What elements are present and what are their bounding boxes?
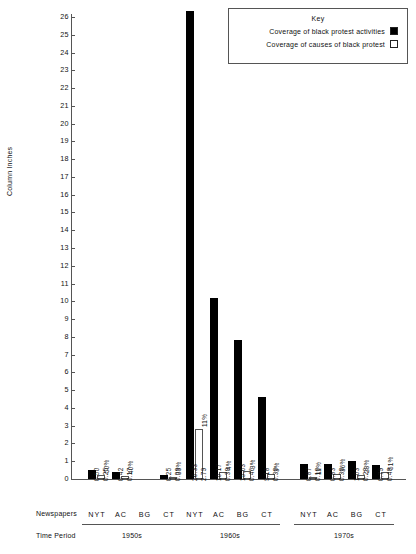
bar-value-label-activities: 0.25	[166, 468, 172, 481]
bar-value-label-causes: 2.79	[201, 468, 207, 481]
y-axis-tick-label: 19	[49, 137, 69, 144]
bar-value-label-causes: 0.23	[363, 468, 369, 481]
y-axis-tick-mark	[71, 159, 75, 160]
y-axis-tick-label: 2	[49, 439, 69, 446]
bar-value-label-causes: 0.38	[225, 468, 231, 481]
y-axis-tick-mark	[71, 17, 75, 18]
y-axis-tick-label: 6	[49, 368, 69, 375]
y-axis-tick-mark	[71, 443, 75, 444]
y-axis-tick-mark	[71, 266, 75, 267]
bar-value-label-causes: 0.30	[339, 468, 345, 481]
newspaper-label-ct: CT	[255, 510, 279, 519]
y-axis-tick-mark	[71, 106, 75, 107]
newspaper-label-bg: BG	[133, 510, 157, 519]
legend-item-label: Coverage of causes of black protest	[266, 41, 385, 48]
y-axis-tick-label: 18	[49, 155, 69, 162]
legend-item-label: Coverage of black protest activities	[269, 28, 385, 35]
newspaper-label-bg: BG	[231, 510, 255, 519]
y-axis-tick-label: 25	[49, 31, 69, 38]
y-axis-tick-mark	[71, 70, 75, 71]
period-rule	[180, 524, 280, 525]
y-axis-tick-label: 24	[49, 49, 69, 56]
y-axis-tick-label: 13	[49, 244, 69, 251]
bar-value-label-activities: 1.03	[354, 468, 360, 481]
bar-value-label-activities: 0.83	[330, 468, 336, 481]
newspaper-label-nyt: NYT	[85, 510, 109, 519]
y-axis-tick-label: 20	[49, 120, 69, 127]
legend-items: Coverage of black protest activitiesCove…	[229, 27, 407, 48]
y-axis-tick-label: 15	[49, 208, 69, 215]
bar-value-label-activities: 0.42	[118, 468, 124, 481]
newspaper-label-ct: CT	[369, 510, 393, 519]
y-axis-title-text: Column Inches	[6, 86, 13, 196]
axis-tables: Newspapers Time Period NYTACBGCT1950sNYT…	[0, 500, 416, 554]
y-axis-tick-mark	[71, 248, 75, 249]
y-axis-tick-mark	[71, 195, 75, 196]
period-rule	[294, 524, 394, 525]
bar-value-label-causes: 0.25	[103, 468, 109, 481]
newspaper-label-nyt: NYT	[183, 510, 207, 519]
bar-activities	[234, 340, 242, 479]
bar-value-label-causes: 0.30	[273, 468, 279, 481]
period-label-1960s: 1960s	[180, 532, 280, 539]
bar-value-label-causes: 0.08	[175, 468, 181, 481]
y-axis-tick-mark	[71, 230, 75, 231]
legend-item: Coverage of black protest activities	[229, 27, 407, 35]
y-axis-title: Column Inches	[6, 86, 13, 196]
bar-activities	[186, 11, 194, 479]
bar-value-label-activities: 10.17	[216, 464, 222, 481]
legend-swatch-filled	[390, 27, 398, 35]
bar-value-label-activities: 26.33	[192, 464, 198, 481]
y-axis-tick-label: 21	[49, 102, 69, 109]
y-axis-tick-label: 22	[49, 84, 69, 91]
bar-value-label-causes: 0.40	[387, 468, 393, 481]
y-axis-tick-mark	[71, 141, 75, 142]
bar-value-label-causes: 0.46	[249, 468, 255, 481]
legend-item: Coverage of causes of black protest	[229, 40, 407, 48]
bar-value-label-activities: 0.79	[378, 468, 384, 481]
y-axis-line	[71, 14, 72, 480]
legend-swatch-hollow	[390, 40, 398, 48]
y-axis-tick-mark	[71, 408, 75, 409]
newspapers-row-label: Newspapers	[36, 510, 77, 517]
y-axis-tick-label: 5	[49, 386, 69, 393]
y-axis-tick-mark	[71, 177, 75, 178]
y-axis-tick-mark	[71, 212, 75, 213]
y-axis-tick-label: 7	[49, 351, 69, 358]
period-label-1970s: 1970s	[294, 532, 394, 539]
legend: Key Coverage of black protest activities…	[228, 8, 408, 64]
newspaper-label-nyt: NYT	[297, 510, 321, 519]
newspaper-label-ac: AC	[207, 510, 231, 519]
y-axis-tick-mark	[71, 301, 75, 302]
period-label-1950s: 1950s	[82, 532, 182, 539]
bar-value-label-causes: 0.10	[315, 468, 321, 481]
time-period-row-label: Time Period	[36, 532, 76, 539]
bar-value-label-activities: 9.18	[264, 468, 270, 481]
y-axis-tick-label: 12	[49, 262, 69, 269]
y-axis-tick-label: 16	[49, 191, 69, 198]
y-axis-tick-label: 26	[49, 13, 69, 20]
y-axis-tick-mark	[71, 426, 75, 427]
y-axis-tick-mark	[71, 461, 75, 462]
bar-percent-label: 11%	[202, 414, 208, 427]
y-axis-tick-label: 8	[49, 333, 69, 340]
y-axis-tick-label: 14	[49, 226, 69, 233]
y-axis-tick-mark	[71, 355, 75, 356]
y-axis-tick-mark	[71, 372, 75, 373]
y-axis-tick-mark	[71, 390, 75, 391]
y-axis-tick-mark	[71, 479, 75, 480]
y-axis-tick-label: 1	[49, 457, 69, 464]
y-axis-tick-label: 23	[49, 66, 69, 73]
newspaper-label-bg: BG	[345, 510, 369, 519]
y-axis-tick-mark	[71, 124, 75, 125]
y-axis-tick-label: 0	[49, 475, 69, 482]
y-axis-tick-label: 3	[49, 422, 69, 429]
bar-value-label-causes: 0.17	[127, 468, 133, 481]
y-axis-tick-label: 4	[49, 404, 69, 411]
legend-title: Key	[229, 15, 407, 22]
y-axis-tick-label: 11	[49, 280, 69, 287]
newspaper-label-ac: AC	[321, 510, 345, 519]
bar-value-label-activities: 15.63	[240, 464, 246, 481]
period-rule	[82, 524, 182, 525]
y-axis-tick-label: 9	[49, 315, 69, 322]
